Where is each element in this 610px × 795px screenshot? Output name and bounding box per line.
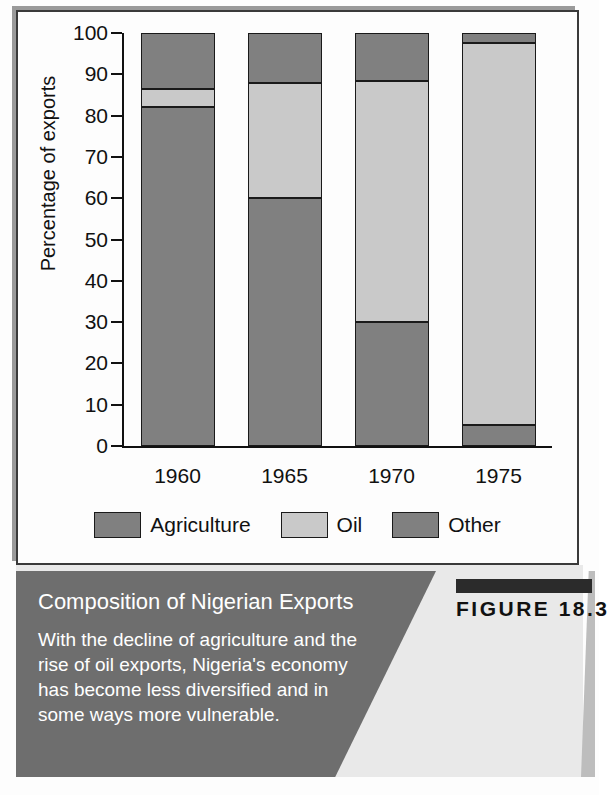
y-tick-mark [111,404,122,406]
bar-group: 1960196519701975 [124,33,552,446]
legend-swatch-agriculture [94,512,141,538]
bar-column: 1970 [355,33,429,446]
bar-stack [355,33,429,446]
y-axis-label: Percentage of exports [37,0,60,354]
legend-label: Oil [337,513,363,537]
y-tick-label: 70 [85,145,108,169]
x-tick-label: 1970 [368,464,415,488]
bar-stack [141,33,215,446]
caption-title: Composition of Nigerian Exports [38,589,428,615]
y-tick-label: 60 [85,186,108,210]
bar-stack [462,33,536,446]
y-tick-label: 30 [85,310,108,334]
y-tick-mark [111,321,122,323]
legend-item-oil: Oil [281,512,363,538]
bar-segment-oil [141,89,215,108]
y-tick-mark [111,32,122,34]
chart-legend: AgricultureOilOther [18,512,577,538]
chart-frame: Percentage of exports 010203040506070809… [16,10,579,565]
y-tick-label: 100 [73,21,108,45]
x-tick-label: 1965 [261,464,308,488]
bar-segment-agriculture [462,425,536,446]
caption-zone: Composition of Nigerian Exports With the… [16,565,599,795]
bar-segment-other [141,33,215,89]
y-tick-mark [111,445,122,447]
bar-column: 1960 [141,33,215,446]
y-tick-label: 20 [85,351,108,375]
bar-segment-other [355,33,429,80]
plot-area: Percentage of exports 010203040506070809… [18,12,577,563]
x-tick-label: 1975 [475,464,522,488]
bar-segment-oil [462,43,536,425]
caption-body-text: With the decline of agriculture and the … [38,627,368,727]
y-tick-mark [111,115,122,117]
y-tick-label: 90 [85,62,108,86]
y-tick-label: 0 [96,434,108,458]
bar-segment-other [248,33,322,83]
y-tick-mark [111,362,122,364]
y-axis-ticks: 0102030405060708090100 [62,33,122,446]
bar-stack [248,33,322,446]
bar-column: 1965 [248,33,322,446]
legend-swatch-other [392,512,439,538]
y-tick-label: 80 [85,104,108,128]
legend-swatch-oil [281,512,328,538]
bar-segment-other [462,33,536,43]
x-axis-line [122,446,552,448]
y-tick-mark [111,239,122,241]
y-tick-label: 50 [85,228,108,252]
x-tick-label: 1960 [154,464,201,488]
bar-segment-agriculture [355,322,429,446]
y-tick-mark [111,73,122,75]
y-tick-label: 10 [85,393,108,417]
y-tick-mark [111,156,122,158]
figure-number-label: FIGURE 18.3 [456,597,601,621]
y-tick-mark [111,197,122,199]
bar-segment-agriculture [248,198,322,446]
y-tick-label: 40 [85,269,108,293]
figure-number-rule [456,579,592,593]
legend-label: Other [448,513,501,537]
y-tick-mark [111,280,122,282]
legend-label: Agriculture [150,513,250,537]
legend-item-agriculture: Agriculture [94,512,250,538]
bar-segment-agriculture [141,107,215,446]
legend-item-other: Other [392,512,501,538]
bar-segment-oil [248,83,322,199]
bar-segment-oil [355,81,429,323]
bar-column: 1975 [462,33,536,446]
